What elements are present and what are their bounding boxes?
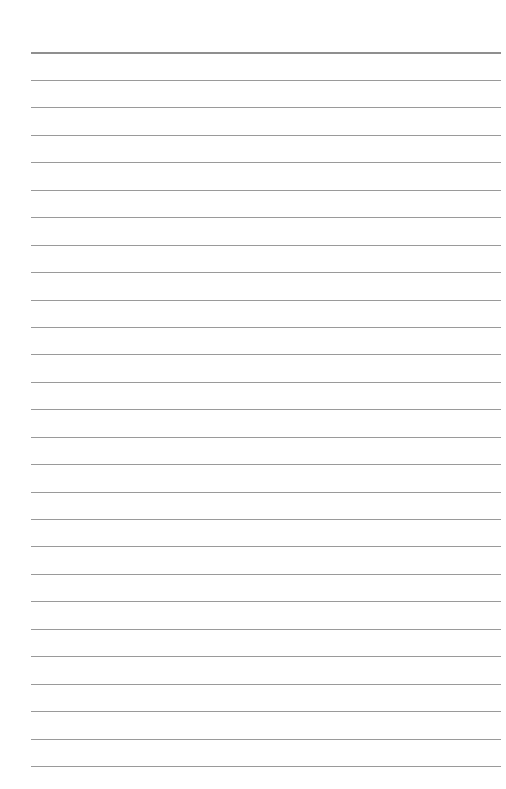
rule-line	[31, 437, 501, 438]
rule-line	[31, 464, 501, 465]
rule-line	[31, 409, 501, 410]
rule-line	[31, 107, 501, 108]
rule-line	[31, 739, 501, 740]
rule-line	[31, 245, 501, 246]
rule-line	[31, 574, 501, 575]
rule-line	[31, 656, 501, 657]
lined-page	[0, 0, 506, 789]
rule-line	[31, 601, 501, 602]
rule-line	[31, 711, 501, 712]
rule-line	[31, 629, 501, 630]
rule-line	[31, 684, 501, 685]
rule-line	[31, 80, 501, 81]
rule-line	[31, 135, 501, 136]
rule-line	[31, 190, 501, 191]
rule-line	[31, 354, 501, 355]
rule-line	[31, 519, 501, 520]
rule-line	[31, 300, 501, 301]
rule-line	[31, 492, 501, 493]
rule-line	[31, 546, 501, 547]
rule-line	[31, 382, 501, 383]
rule-line	[31, 766, 501, 767]
top-rule-line	[31, 52, 501, 54]
rule-line	[31, 217, 501, 218]
rule-line	[31, 272, 501, 273]
rule-line	[31, 162, 501, 163]
rule-line	[31, 327, 501, 328]
